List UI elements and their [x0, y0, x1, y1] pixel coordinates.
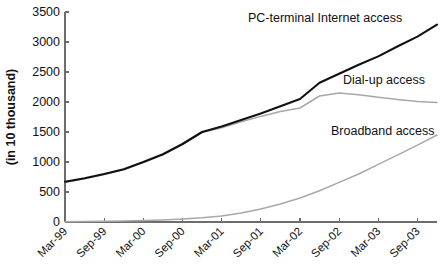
y-tick-label: 3500 — [32, 5, 60, 19]
y-tick-label: 1500 — [32, 125, 60, 139]
series-line — [65, 135, 437, 222]
x-tick-label: Mar-02 — [270, 225, 304, 259]
series-label: PC-terminal Internet access — [248, 11, 402, 25]
x-axis-ticks: Mar-99Sep-99Mar-00Sep-00Mar-01Sep-01Mar-… — [35, 218, 422, 260]
series-label: Broadband access — [331, 124, 435, 138]
y-tick-label: 2000 — [32, 95, 60, 109]
x-tick-label: Mar-99 — [35, 225, 69, 259]
line-chart-figure: 0500100015002000250030003500 Mar-99Sep-9… — [0, 0, 440, 271]
y-axis-title: (in 10 thousand) — [4, 69, 18, 166]
series-annotations: PC-terminal Internet accessDial-up acces… — [248, 11, 435, 138]
x-tick-label: Mar-03 — [348, 225, 382, 259]
y-tick-label: 2500 — [32, 65, 60, 79]
y-tick-label: 3000 — [32, 35, 60, 49]
x-tick-label: Sep-00 — [152, 225, 187, 260]
series-line — [65, 25, 437, 182]
y-axis: 0500100015002000250030003500 — [32, 5, 69, 229]
x-axis: Mar-99Sep-99Mar-00Sep-00Mar-01Sep-01Mar-… — [35, 218, 437, 260]
chart-canvas: 0500100015002000250030003500 Mar-99Sep-9… — [0, 0, 440, 271]
series-label: Dial-up access — [343, 73, 425, 87]
y-axis-ticks: 0500100015002000250030003500 — [32, 5, 69, 229]
x-tick-label: Mar-00 — [113, 225, 147, 259]
x-tick-label: Sep-01 — [230, 225, 265, 260]
x-tick-label: Sep-02 — [309, 225, 344, 260]
y-tick-label: 1000 — [32, 155, 60, 169]
x-tick-label: Mar-01 — [192, 225, 226, 259]
x-tick-label: Sep-03 — [387, 225, 422, 260]
y-tick-label: 500 — [39, 185, 60, 199]
x-tick-label: Sep-99 — [74, 225, 109, 260]
